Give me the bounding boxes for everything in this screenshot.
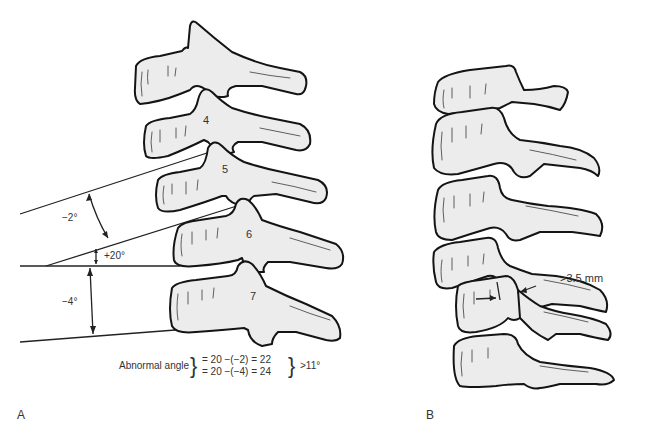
angle-label-upper: −2° [62, 212, 77, 223]
angle-label-middle: +20° [104, 250, 125, 261]
measurement-label: >3.5 mm [560, 272, 603, 284]
vertebra-label-4: 4 [203, 114, 209, 126]
angle-arc-upper [89, 194, 108, 238]
vertebra-b5-displaced [456, 276, 521, 332]
panel-a-illustration: 4 5 6 7 −2° +20° −4° Abnormal angle } = … [20, 21, 343, 378]
vertebra-b3 [434, 176, 602, 241]
angle-arc-lower [90, 268, 93, 334]
vertebra-label-6: 6 [246, 228, 252, 240]
vertebra-b1 [434, 66, 568, 114]
vertebra-b2 [432, 108, 599, 178]
formula-line-1: = 20 −(−2) = 22 [202, 354, 271, 365]
left-brace-icon: } [190, 353, 197, 378]
panel-label-a: A [17, 408, 25, 422]
vertebra-c7 [170, 261, 340, 346]
vertebra-b6 [454, 334, 614, 389]
formula-prefix: Abnormal angle [119, 360, 189, 371]
vertebra-label-5: 5 [222, 163, 228, 175]
formula-result: >11° [300, 360, 320, 371]
arrowhead-icon [86, 194, 92, 201]
vertebra-c6 [174, 199, 344, 272]
panel-label-b: B [426, 408, 434, 422]
right-brace-icon: } [288, 353, 295, 378]
panel-b-illustration: >3.5 mm [432, 66, 614, 389]
vertebra-c3 [135, 21, 307, 104]
formula-line-2: = 20 −(−4) = 24 [202, 366, 271, 377]
arrowhead-icon [94, 260, 98, 264]
arrowhead-icon [87, 268, 93, 276]
vertebra-label-7: 7 [250, 290, 256, 302]
vertebra-c4 [144, 89, 310, 158]
angle-label-lower: −4° [62, 296, 77, 307]
figure-canvas: 4 5 6 7 −2° +20° −4° Abnormal angle } = … [0, 0, 648, 425]
arrowhead-icon [90, 326, 96, 334]
